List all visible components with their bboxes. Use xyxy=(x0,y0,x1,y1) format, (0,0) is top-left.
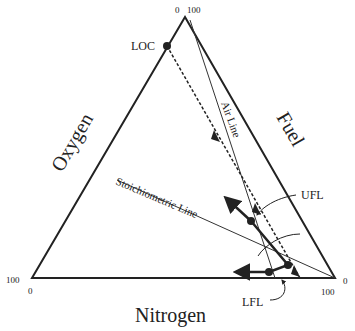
ternary-diagram: 0 100 100 0 0 100 Oxygen Fuel Nitrogen A… xyxy=(0,0,355,331)
lfl-label: LFL xyxy=(242,295,263,309)
axis-label-nitrogen: Nitrogen xyxy=(135,304,206,327)
dashed-arrow-3 xyxy=(291,265,300,277)
tick-right-bottom: 100 xyxy=(321,287,335,297)
lfl-point xyxy=(265,268,273,276)
ufl-point xyxy=(247,217,255,225)
axis-label-fuel: Fuel xyxy=(273,108,310,150)
tick-top-right: 100 xyxy=(187,5,201,15)
ufl-arrow xyxy=(226,198,251,221)
tick-top-left: 0 xyxy=(175,5,180,15)
tick-left-top: 100 xyxy=(6,275,20,285)
tick-right-top: 0 xyxy=(343,276,348,286)
loc-point xyxy=(163,42,171,50)
dilution-dashed-line xyxy=(167,46,300,278)
loc-label: LOC xyxy=(131,39,155,53)
stoichiometric-line-label: Stoichiometric Line xyxy=(114,175,199,220)
dashed-arrow-1 xyxy=(211,130,220,142)
nose-point xyxy=(284,261,292,269)
axis-label-oxygen: Oxygen xyxy=(46,109,98,175)
ufl-label: UFL xyxy=(301,188,324,202)
tick-left-bottom: 0 xyxy=(28,286,33,296)
air-line xyxy=(190,20,275,278)
lfl-callout xyxy=(270,280,285,300)
